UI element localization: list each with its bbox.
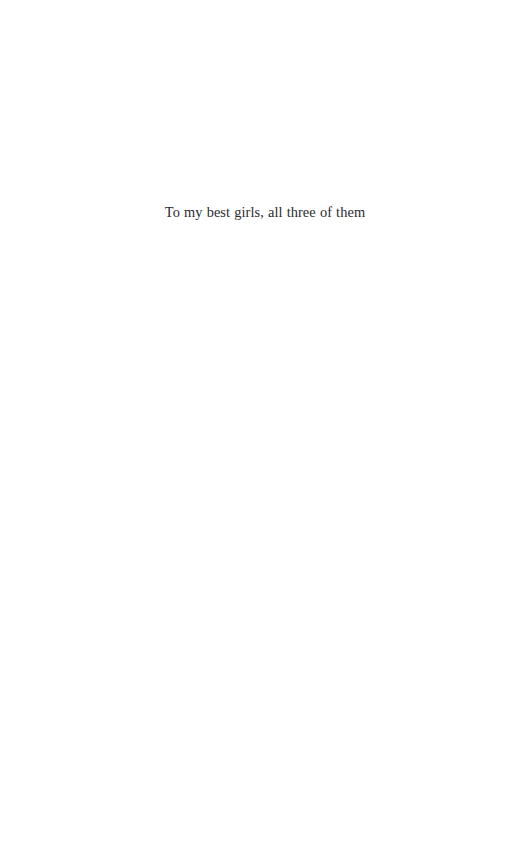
dedication-page: To my best girls, all three of them bbox=[0, 0, 520, 854]
dedication-block: To my best girls, all three of them bbox=[0, 203, 520, 221]
paper-texture bbox=[0, 0, 520, 854]
dedication-text: To my best girls, all three of them bbox=[155, 204, 365, 221]
